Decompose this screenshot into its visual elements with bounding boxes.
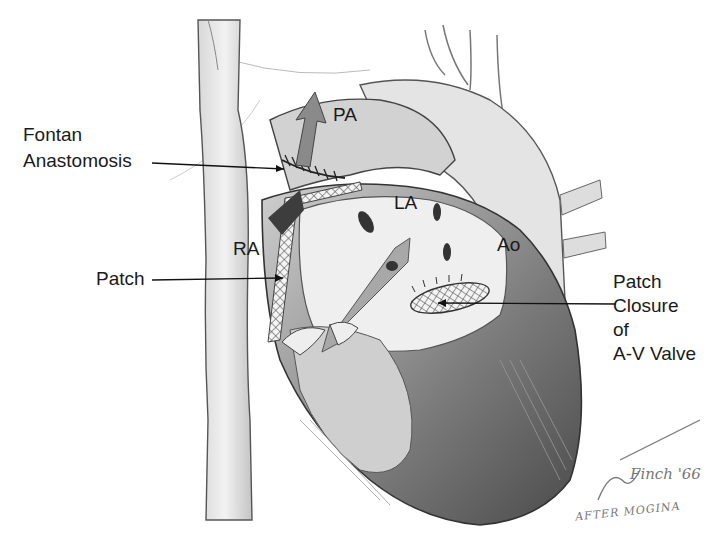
label-ra: RA: [233, 238, 259, 260]
label-closure-line1: Patch: [613, 271, 662, 293]
label-patch: Patch: [96, 268, 145, 290]
label-fontan-line1: Fontan: [23, 124, 82, 146]
label-fontan-line2: Anastomosis: [23, 150, 132, 172]
label-la: LA: [394, 192, 417, 214]
label-closure-line2: Closure: [613, 295, 678, 317]
label-ao: Ao: [497, 234, 520, 256]
label-closure-line3: of: [613, 319, 629, 341]
signature-name: Finch '66: [630, 465, 701, 483]
heart-illustration: Fontan Anastomosis Patch PA LA RA Ao Pat…: [0, 0, 728, 559]
label-closure-line4: A-V Valve: [613, 343, 696, 365]
label-pa: PA: [333, 104, 357, 126]
